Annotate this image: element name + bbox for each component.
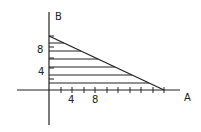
constraint-line xyxy=(49,36,164,90)
x-tick-label-4: 4 xyxy=(68,94,74,105)
region-hatching xyxy=(49,43,149,83)
x-tick-label-8: 8 xyxy=(92,94,98,105)
y-tick-label-4: 4 xyxy=(38,66,44,77)
x-axis-label: A xyxy=(184,92,191,103)
constraint-diagram: B A 4 8 8 4 xyxy=(0,0,201,132)
y-ticks xyxy=(49,36,54,79)
y-tick-label-8: 8 xyxy=(37,44,43,55)
y-axis-label: B xyxy=(55,11,62,22)
